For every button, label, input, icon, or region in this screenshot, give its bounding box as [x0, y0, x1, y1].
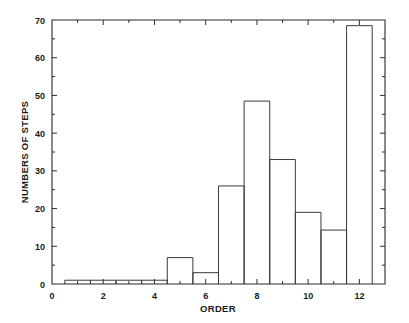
histogram-bar	[270, 160, 296, 284]
y-axis-title: NUMBERS OF STEPS	[19, 101, 30, 203]
x-tick-label: 10	[303, 291, 313, 301]
x-tick-label: 4	[152, 291, 157, 301]
x-tick-label: 0	[49, 291, 54, 301]
chart-figure: 010203040506070 024681012 ORDER NUMBERS …	[0, 0, 409, 323]
y-tick-label: 70	[35, 16, 45, 26]
histogram-bar	[219, 186, 245, 284]
x-tick-label: 8	[254, 291, 259, 301]
histogram-bar	[295, 212, 321, 284]
y-tick-label: 30	[35, 166, 45, 176]
histogram-bar	[347, 26, 373, 284]
y-tick-label: 10	[35, 242, 45, 252]
histogram-bar	[244, 101, 270, 284]
histogram-bar	[321, 230, 347, 284]
histogram-bars	[65, 26, 372, 284]
y-tick-label: 20	[35, 204, 45, 214]
x-axis-tick-labels: 024681012	[49, 291, 364, 301]
y-tick-label: 50	[35, 91, 45, 101]
x-tick-label: 6	[203, 291, 208, 301]
x-tick-label: 2	[101, 291, 106, 301]
y-axis-tick-labels: 010203040506070	[35, 16, 45, 290]
y-tick-label: 40	[35, 129, 45, 139]
histogram-bar	[167, 258, 193, 284]
x-axis-title: ORDER	[200, 303, 236, 314]
x-tick-label: 12	[354, 291, 364, 301]
y-tick-label: 0	[40, 280, 45, 290]
y-tick-label: 60	[35, 53, 45, 63]
histogram-plot: 010203040506070 024681012 ORDER NUMBERS …	[0, 0, 409, 323]
